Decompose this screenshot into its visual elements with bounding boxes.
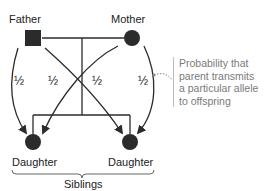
probability-mother-right: ½ xyxy=(138,74,148,88)
father-label: Father xyxy=(9,13,41,25)
arrow-father-to-left xyxy=(12,48,26,133)
arrow-mother-to-left xyxy=(43,46,118,133)
mother-label: Mother xyxy=(111,13,145,25)
daughter-right-label: Daughter xyxy=(108,156,153,168)
annotation-leader xyxy=(154,74,172,80)
daughter-right-symbol xyxy=(122,134,138,150)
arrow-father-to-right xyxy=(45,48,122,133)
arrow-mother-to-right xyxy=(138,46,154,133)
siblings-brace xyxy=(12,170,154,178)
mother-symbol xyxy=(124,30,140,46)
daughter-left-symbol xyxy=(25,134,41,150)
father-symbol xyxy=(25,30,41,46)
probability-father-right: ½ xyxy=(48,74,58,88)
siblings-label: Siblings xyxy=(64,178,103,190)
probability-father-left: ½ xyxy=(14,74,24,88)
probability-annotation: Probability that parent transmits a part… xyxy=(173,57,258,107)
probability-mother-left: ½ xyxy=(92,74,102,88)
daughter-left-label: Daughter xyxy=(12,156,57,168)
